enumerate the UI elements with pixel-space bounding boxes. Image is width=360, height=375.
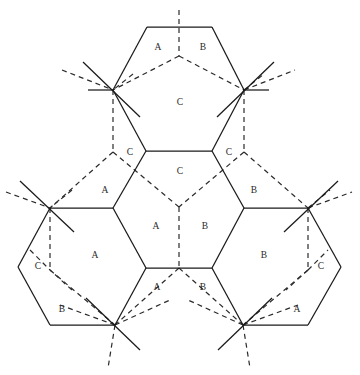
hexagonal-tiling-figure: ABCCCCABABABCCABBA xyxy=(0,0,360,375)
dashed-edge xyxy=(60,305,115,325)
solid-edge xyxy=(212,151,244,208)
region-label-a: A xyxy=(102,185,109,195)
solid-edge xyxy=(218,298,272,350)
region-label-c: C xyxy=(226,147,232,157)
dashed-edge-layer xyxy=(6,10,352,368)
region-label-b: B xyxy=(200,282,206,292)
dashed-edge xyxy=(179,268,243,325)
solid-edge xyxy=(113,151,146,208)
dashed-edge xyxy=(308,192,352,208)
dashed-edge xyxy=(244,70,295,90)
dashed-edge xyxy=(62,70,113,90)
solid-edge xyxy=(86,298,140,350)
region-label-b: B xyxy=(202,221,208,231)
solid-edge xyxy=(113,27,147,90)
solid-edge xyxy=(212,90,244,151)
region-label-a: A xyxy=(153,221,160,231)
dashed-edge xyxy=(108,325,115,368)
dashed-edge xyxy=(244,152,308,208)
region-label-b: B xyxy=(261,250,267,260)
dashed-edge xyxy=(179,56,244,90)
region-label-a: A xyxy=(155,42,162,52)
dashed-edge xyxy=(113,152,179,207)
dashed-edge xyxy=(6,192,50,208)
solid-edge xyxy=(212,268,243,325)
region-label-c: C xyxy=(177,166,183,176)
dashed-edge xyxy=(50,190,72,208)
solid-edge xyxy=(308,267,341,325)
solid-edge xyxy=(113,208,146,268)
dashed-edge xyxy=(188,300,243,325)
region-label-layer: ABCCCCABABABCCABBA xyxy=(35,42,324,314)
region-label-a: A xyxy=(294,304,301,314)
region-label-b: B xyxy=(200,42,206,52)
dashed-edge xyxy=(50,152,113,208)
solid-edge xyxy=(212,27,244,90)
region-label-a: A xyxy=(154,282,161,292)
region-label-c: C xyxy=(127,147,133,157)
region-label-c: C xyxy=(177,97,183,107)
solid-edge xyxy=(284,181,338,232)
solid-edge xyxy=(113,90,146,151)
dashed-edge xyxy=(113,56,179,90)
dashed-edge xyxy=(243,305,298,325)
region-label-a: A xyxy=(92,250,99,260)
region-label-c: C xyxy=(318,261,324,271)
solid-edge xyxy=(115,268,146,325)
dashed-edge xyxy=(243,325,250,368)
region-label-c: C xyxy=(35,261,41,271)
dashed-edge xyxy=(286,270,308,290)
region-label-b: B xyxy=(251,185,257,195)
dashed-edge xyxy=(115,268,179,325)
tiling-diagram: ABCCCCABABABCCABBA xyxy=(0,0,360,375)
solid-edge xyxy=(18,208,50,267)
solid-edge xyxy=(212,208,244,268)
solid-edge xyxy=(18,267,50,325)
solid-edge-layer xyxy=(18,27,341,350)
solid-edge xyxy=(308,208,341,267)
dashed-edge xyxy=(115,300,170,325)
dashed-edge xyxy=(113,74,133,90)
dashed-edge xyxy=(179,152,244,207)
region-label-b: B xyxy=(59,304,65,314)
solid-edge xyxy=(20,181,74,232)
